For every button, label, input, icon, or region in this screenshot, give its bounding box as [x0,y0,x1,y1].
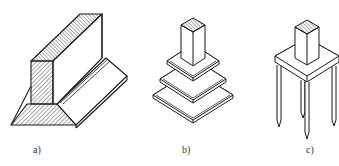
figure-a-strip-footing [11,14,127,128]
label-c: c) [306,145,314,155]
pile-back-right [332,66,336,126]
figure-b-stepped-footing [153,18,233,123]
label-a: a) [33,145,41,155]
foundation-diagram [0,0,339,166]
pile-left [277,65,281,127]
wall-section [31,61,53,104]
pile-front [305,82,309,139]
pile-back-left [301,80,305,118]
figure-c-pile-cap [275,20,339,139]
label-b: b) [182,145,190,155]
